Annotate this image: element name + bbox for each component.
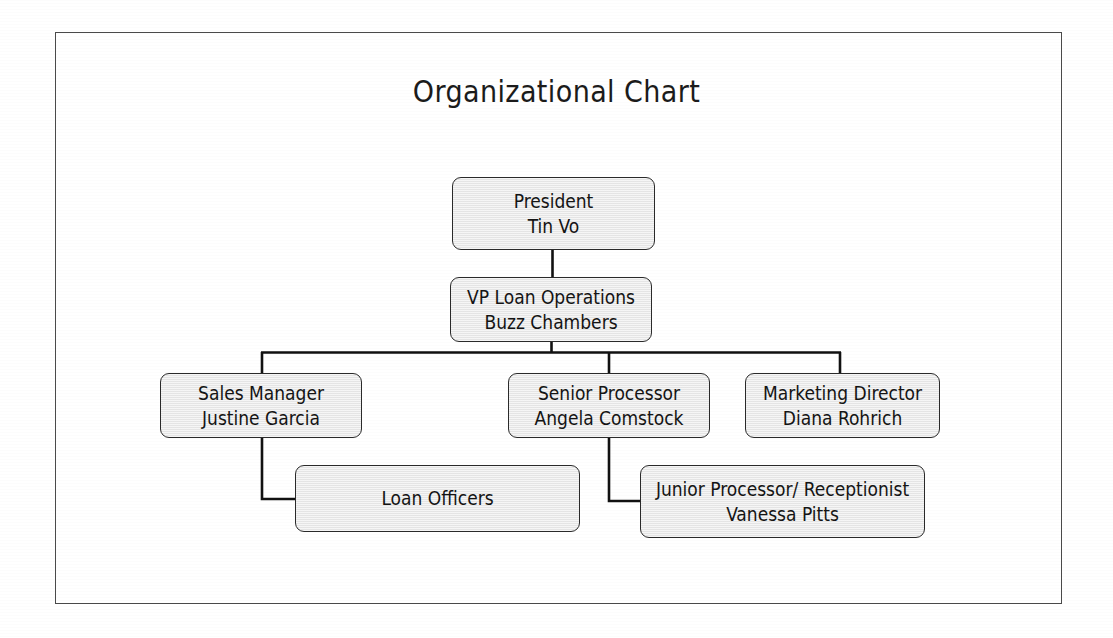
node-sales-manager[interactable]: Sales Manager Justine Garcia — [160, 373, 362, 438]
node-marketing-director-role: Marketing Director — [763, 381, 922, 406]
node-loan-officers-role: Loan Officers — [381, 486, 493, 511]
node-senior-processor-person: Angela Comstock — [535, 406, 684, 431]
node-marketing-director[interactable]: Marketing Director Diana Rohrich — [745, 373, 940, 438]
connector-sales-manager-to-loan-officers — [262, 438, 296, 499]
connector-senior-processor-to-junior-processor — [609, 438, 641, 501]
node-senior-processor[interactable]: Senior Processor Angela Comstock — [508, 373, 710, 438]
organizational-chart-page: Organizational Chart President Tin Vo VP… — [0, 0, 1113, 638]
node-junior-processor-person: Vanessa Pitts — [726, 502, 839, 527]
node-senior-processor-role: Senior Processor — [538, 381, 680, 406]
node-junior-processor-role: Junior Processor/ Receptionist — [656, 477, 909, 502]
node-vp-loan-operations[interactable]: VP Loan Operations Buzz Chambers — [450, 277, 652, 342]
node-sales-manager-person: Justine Garcia — [202, 406, 320, 431]
node-vp-loan-operations-role: VP Loan Operations — [467, 285, 635, 310]
node-loan-officers[interactable]: Loan Officers — [295, 465, 580, 532]
node-president-role: President — [514, 189, 594, 214]
node-marketing-director-person: Diana Rohrich — [783, 406, 902, 431]
node-president-person: Tin Vo — [528, 214, 580, 239]
node-president[interactable]: President Tin Vo — [452, 177, 655, 250]
node-sales-manager-role: Sales Manager — [198, 381, 324, 406]
node-vp-loan-operations-person: Buzz Chambers — [484, 310, 617, 335]
node-junior-processor[interactable]: Junior Processor/ Receptionist Vanessa P… — [640, 465, 925, 538]
